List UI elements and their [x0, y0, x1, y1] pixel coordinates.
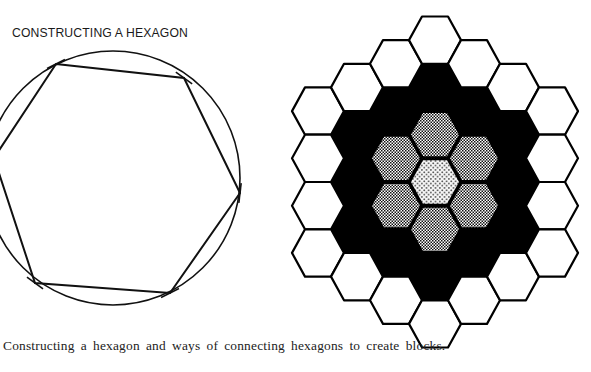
diagram-title: CONSTRUCTING A HEXAGON: [12, 26, 188, 40]
constructed-hexagon: [0, 64, 240, 293]
hexagon-block-diagram: [292, 17, 578, 348]
figure-caption: Constructing a hexagon and ways of conne…: [3, 338, 445, 354]
figure-canvas: [0, 0, 591, 372]
construction-circle: [0, 51, 240, 305]
hexagon-construction-diagram: [0, 51, 241, 305]
